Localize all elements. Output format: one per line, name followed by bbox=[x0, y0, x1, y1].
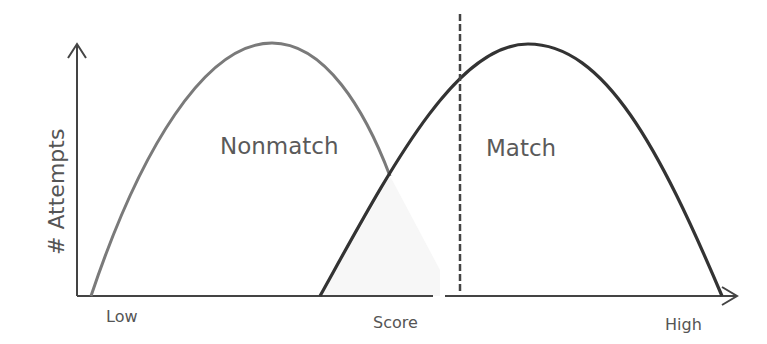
match-label: Match bbox=[486, 135, 556, 161]
nonmatch-label: Nonmatch bbox=[220, 133, 339, 159]
overlap-region bbox=[320, 176, 440, 296]
score-distribution-diagram: Nonmatch Match Low Score High # Attempts bbox=[0, 0, 767, 344]
x-high-label: High bbox=[665, 315, 702, 334]
x-low-label: Low bbox=[106, 307, 138, 326]
y-axis-label: # Attempts bbox=[44, 129, 69, 255]
x-axis-label: Score bbox=[373, 313, 418, 332]
